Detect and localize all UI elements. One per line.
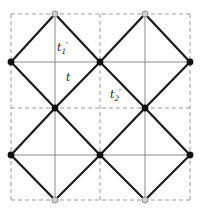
label-t2-prime-mark: ′: [119, 87, 121, 98]
lattice-node-filled: [187, 59, 194, 66]
label-t1-prime: t1′: [57, 41, 68, 55]
lattice-node-filled: [52, 105, 59, 112]
lattice-canvas: [0, 0, 200, 210]
lattice-node-filled: [8, 152, 15, 159]
lattice-node-open: [142, 11, 148, 17]
lattice-node-filled: [97, 152, 104, 159]
label-t: t: [66, 71, 70, 85]
lattice-node-filled: [97, 59, 104, 66]
label-t2-prime: t2′: [110, 88, 121, 102]
lattice-node-open: [142, 197, 148, 203]
lattice-node-open: [52, 197, 58, 203]
lattice-node-filled: [187, 152, 194, 159]
lattice-node-filled: [142, 105, 149, 112]
lattice-node-filled: [8, 59, 15, 66]
lattice-node-open: [52, 11, 58, 17]
lattice-figure: t1′ t t2′: [0, 0, 200, 210]
label-t1-prime-mark: ′: [66, 40, 68, 51]
label-t-base: t: [66, 71, 70, 84]
